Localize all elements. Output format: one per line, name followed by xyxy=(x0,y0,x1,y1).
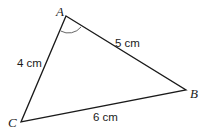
angle-a-arc-icon xyxy=(61,27,81,33)
side-label-ab: 5 cm xyxy=(115,37,140,49)
side-label-bc: 6 cm xyxy=(93,111,118,123)
side-label-ac: 4 cm xyxy=(17,57,42,69)
triangle-abc xyxy=(21,16,186,122)
vertex-label-a: A xyxy=(55,4,64,19)
vertex-label-c: C xyxy=(8,115,17,130)
vertex-label-b: B xyxy=(190,86,198,101)
triangle-diagram: A B C 5 cm 4 cm 6 cm xyxy=(0,0,208,139)
